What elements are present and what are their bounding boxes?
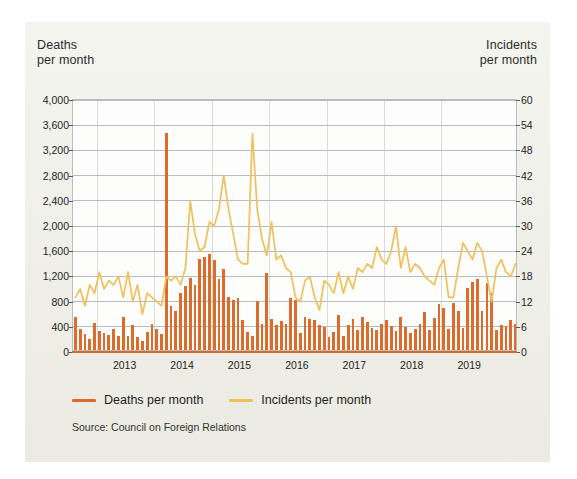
legend-swatch-deaths-icon <box>72 399 96 402</box>
right-axis-tick-mark <box>516 176 520 177</box>
left-axis-tick-label: 2,400 <box>43 196 69 206</box>
right-axis-tick-label: 48 <box>521 145 533 155</box>
left-axis-tick-label: 4,000 <box>43 95 69 105</box>
x-axis-year-label: 2018 <box>400 359 423 371</box>
chart-legend: Deaths per month Incidents per month <box>72 393 371 407</box>
left-axis-tick-label: 2,800 <box>43 171 69 181</box>
right-axis-tick-label: 30 <box>521 221 533 231</box>
right-axis-tick-mark <box>516 100 520 101</box>
right-axis-caption-line1: Incidents <box>480 38 537 53</box>
x-axis-year-label: 2019 <box>457 359 480 371</box>
left-axis-tick-label: 3,200 <box>43 145 69 155</box>
left-axis-tick-label: 1,600 <box>43 246 69 256</box>
right-axis-tick-mark <box>516 125 520 126</box>
x-axis-year-label: 2014 <box>170 359 193 371</box>
right-axis-caption: Incidents per month <box>480 38 537 68</box>
right-axis-caption-line2: per month <box>480 53 537 68</box>
x-axis-year-label: 2015 <box>228 359 251 371</box>
left-axis-tick-label: 1,200 <box>43 271 69 281</box>
legend-label-incidents: Incidents per month <box>261 393 371 407</box>
plot-area: 04008001,2001,6002,0002,4002,8003,2003,6… <box>72 99 517 351</box>
right-axis-tick-mark <box>516 150 520 151</box>
legend-swatch-incidents-icon <box>229 399 253 402</box>
right-axis-tick-mark <box>516 226 520 227</box>
left-axis-tick-label: 800 <box>51 297 69 307</box>
right-axis-tick-label: 54 <box>521 120 533 130</box>
x-axis-rule <box>72 351 517 353</box>
left-axis-caption: Deaths per month <box>37 38 94 68</box>
right-axis-tick-label: 12 <box>521 297 533 307</box>
right-axis-tick-label: 6 <box>521 322 527 332</box>
right-axis-tick-label: 24 <box>521 246 533 256</box>
right-axis-tick-label: 18 <box>521 271 533 281</box>
x-axis-year-label: 2016 <box>285 359 308 371</box>
right-axis-tick-mark <box>516 276 520 277</box>
right-axis-tick-mark <box>516 201 520 202</box>
left-axis-tick-label: 3,600 <box>43 120 69 130</box>
legend-item-deaths: Deaths per month <box>72 393 203 407</box>
right-axis-tick-label: 36 <box>521 196 533 206</box>
left-axis-tick-label: 2,000 <box>43 221 69 231</box>
right-axis-tick-mark <box>516 302 520 303</box>
legend-label-deaths: Deaths per month <box>104 393 203 407</box>
incidents-line-svg <box>73 100 516 350</box>
x-axis-year-label: 2013 <box>113 359 136 371</box>
incidents-line-series <box>73 100 516 350</box>
left-axis-tick-label: 400 <box>51 322 69 332</box>
right-axis-tick-label: 42 <box>521 171 533 181</box>
right-axis-tick-mark <box>516 327 520 328</box>
right-axis-tick-label: 0 <box>521 347 527 357</box>
incidents-line-path <box>75 134 515 315</box>
left-axis-caption-line2: per month <box>37 53 94 68</box>
x-axis-year-label: 2017 <box>343 359 366 371</box>
right-axis-tick-mark <box>516 251 520 252</box>
source-note: Source: Council on Foreign Relations <box>72 421 246 433</box>
right-axis-tick-label: 60 <box>521 95 533 105</box>
left-axis-caption-line1: Deaths <box>37 38 94 53</box>
legend-item-incidents: Incidents per month <box>229 393 371 407</box>
chart-card: Deaths per month Incidents per month 040… <box>25 22 550 462</box>
